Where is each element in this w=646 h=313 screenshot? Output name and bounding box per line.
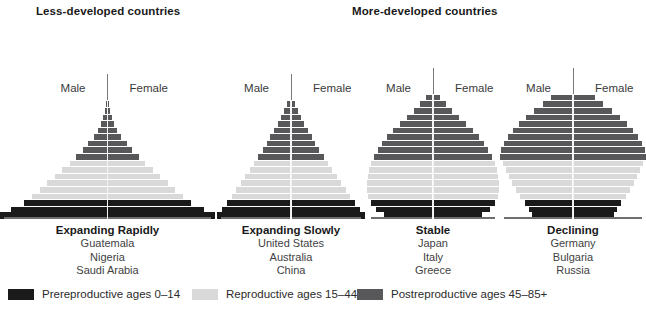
male-label: Male [244,82,269,94]
female-label: Female [313,82,351,94]
group-heading-more-developed: More-developed countries [352,5,498,17]
pyramid-expanding-rapidly: MaleFemaleExpanding RapidlyGuatemalaNige… [0,18,215,306]
pyramid-expanding-slowly: MaleFemaleExpanding SlowlyUnited StatesA… [217,18,365,306]
male-label: Male [526,82,551,94]
legend-item-prereproductive: Prereproductive ages 0–14 [8,288,180,300]
male-label: Male [61,82,86,94]
female-label: Female [130,82,168,94]
pyramid-caption-country: Guatemala [0,237,215,251]
pyramid-caption-country: Germany [500,237,646,251]
pyramid-caption-title: Declining [500,223,646,237]
pyramid-plot: MaleFemale [217,18,365,219]
pyramid-stable: MaleFemaleStableJapanItalyGreece [367,18,499,306]
legend-item-reproductive: Reproductive ages 15–44 [192,288,357,300]
prereproductive-swatch [8,289,34,300]
pyramid-caption-title: Expanding Slowly [217,223,365,237]
female-label: Female [455,82,493,94]
female-label: Female [595,82,633,94]
pyramid-caption: Expanding RapidlyGuatemalaNigeriaSaudi A… [0,223,215,278]
pyramid-caption-country: Italy [367,251,499,265]
pyramid-caption-country: Japan [367,237,499,251]
pyramid-caption-country: Saudi Arabia [0,264,215,278]
pyramid-caption-title: Expanding Rapidly [0,223,215,237]
legend-label-prereproductive: Prereproductive ages 0–14 [42,288,180,300]
pyramid-plot: MaleFemale [367,18,499,219]
pyramid-caption-country: China [217,264,365,278]
pyramid-caption: DecliningGermanyBulgariaRussia [500,223,646,278]
pyramid-caption: Expanding SlowlyUnited StatesAustraliaCh… [217,223,365,278]
legend-label-postreproductive: Postreproductive ages 45–85+ [391,288,547,300]
pyramid-caption-country: Bulgaria [500,251,646,265]
pyramid-declining: MaleFemaleDecliningGermanyBulgariaRussia [500,18,646,306]
male-female-divider [572,94,573,219]
pyramid-caption: StableJapanItalyGreece [367,223,499,278]
male-female-divider [432,94,433,219]
reproductive-swatch [192,289,218,300]
pyramid-caption-country: Australia [217,251,365,265]
age-structure-figure: Less-developed countries More-developed … [0,0,646,313]
pyramid-caption-country: United States [217,237,365,251]
pyramid-caption-country: Greece [367,264,499,278]
group-heading-less-developed: Less-developed countries [36,5,180,17]
pyramid-caption-title: Stable [367,223,499,237]
legend-label-reproductive: Reproductive ages 15–44 [226,288,357,300]
pyramid-plot: MaleFemale [500,18,646,219]
postreproductive-swatch [357,289,383,300]
male-female-divider [290,100,291,219]
pyramid-caption-country: Nigeria [0,251,215,265]
pyramid-plot: MaleFemale [0,18,215,219]
male-label: Male [386,82,411,94]
pyramid-caption-country: Russia [500,264,646,278]
male-female-divider [107,100,108,219]
legend: Prereproductive ages 0–14 Reproductive a… [0,286,646,308]
legend-item-postreproductive: Postreproductive ages 45–85+ [357,288,547,300]
